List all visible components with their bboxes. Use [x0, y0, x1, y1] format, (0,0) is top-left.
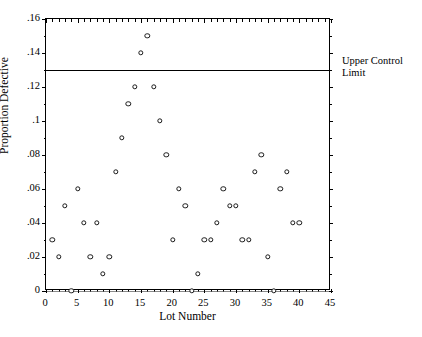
y-tick-mark	[44, 274, 47, 275]
x-tick-mark-top	[103, 19, 104, 22]
x-tick-label: 45	[325, 298, 336, 309]
x-tick-mark	[147, 289, 148, 292]
x-tick-mark-top	[230, 19, 231, 22]
y-tick-label: 0	[35, 285, 40, 296]
x-tick-mark	[122, 289, 123, 292]
x-tick-mark-top	[198, 19, 199, 22]
data-point	[265, 254, 270, 259]
x-tick-mark-top	[185, 19, 186, 22]
upper-control-limit-annotation: Upper Control Limit	[342, 55, 420, 80]
y-tick-mark	[42, 53, 46, 54]
y-tick-mark	[42, 121, 46, 122]
x-tick-mark-top	[65, 19, 66, 22]
data-point	[81, 220, 86, 225]
x-tick-mark	[103, 289, 104, 292]
data-point	[94, 220, 99, 225]
data-point	[227, 203, 232, 208]
y-tick-mark	[44, 104, 47, 105]
y-tick-mark	[44, 70, 47, 71]
data-point	[157, 118, 162, 123]
x-tick-mark-top	[312, 19, 313, 22]
x-tick-mark-top	[318, 19, 319, 22]
data-point	[297, 220, 302, 225]
data-point	[284, 169, 289, 174]
x-tick-mark-top	[84, 19, 85, 22]
x-tick-mark-top	[78, 19, 79, 23]
x-axis-title: Lot Number	[45, 310, 330, 322]
y-tick-label: .04	[27, 217, 40, 228]
y-tick-label: .12	[27, 81, 40, 92]
data-point	[202, 237, 207, 242]
data-point	[290, 220, 295, 225]
x-tick-mark-top	[135, 19, 136, 22]
y-tick-mark	[42, 155, 46, 156]
x-tick-mark-top	[299, 19, 300, 23]
x-tick-label: 30	[230, 298, 241, 309]
data-point	[62, 203, 67, 208]
x-tick-label: 40	[293, 298, 304, 309]
x-tick-mark	[230, 289, 231, 292]
x-tick-mark	[287, 289, 288, 292]
x-tick-mark	[109, 289, 110, 293]
x-tick-mark-top	[166, 19, 167, 22]
data-point	[151, 84, 156, 89]
x-tick-mark	[173, 289, 174, 293]
y-tick-mark-right	[329, 87, 333, 88]
x-tick-mark	[78, 289, 79, 293]
x-tick-mark	[204, 289, 205, 293]
x-tick-mark	[299, 289, 300, 293]
y-tick-mark-right	[329, 274, 332, 275]
x-tick-mark-top	[242, 19, 243, 22]
y-tick-label: .06	[27, 183, 40, 194]
x-tick-mark	[236, 289, 237, 293]
x-tick-label: 20	[166, 298, 177, 309]
y-tick-mark-right	[329, 155, 333, 156]
x-tick-mark	[59, 289, 60, 292]
data-point	[233, 203, 238, 208]
x-tick-mark-top	[90, 19, 91, 22]
data-point	[183, 203, 188, 208]
x-tick-mark-top	[280, 19, 281, 22]
x-tick-mark-top	[287, 19, 288, 22]
y-tick-mark-right	[329, 257, 333, 258]
x-tick-mark	[198, 289, 199, 292]
x-tick-mark	[179, 289, 180, 292]
x-tick-mark-top	[268, 19, 269, 23]
x-tick-mark	[185, 289, 186, 292]
x-tick-mark	[268, 289, 269, 293]
y-tick-mark	[42, 257, 46, 258]
data-point	[138, 50, 143, 55]
x-tick-mark	[128, 289, 129, 292]
data-point	[176, 186, 181, 191]
data-point	[240, 237, 245, 242]
x-tick-mark	[116, 289, 117, 292]
y-tick-mark-right	[329, 36, 332, 37]
ucl-label-line-1: Upper Control	[342, 55, 420, 67]
x-tick-mark-top	[331, 19, 332, 23]
x-tick-mark	[325, 289, 326, 292]
x-tick-label: 25	[198, 298, 209, 309]
x-tick-mark	[97, 289, 98, 292]
x-tick-mark-top	[306, 19, 307, 22]
data-point	[221, 186, 226, 191]
upper-control-limit	[46, 70, 329, 71]
data-point	[189, 288, 194, 293]
x-tick-mark-top	[173, 19, 174, 23]
y-tick-mark	[42, 223, 46, 224]
x-tick-mark-top	[204, 19, 205, 23]
y-tick-mark-right	[329, 121, 333, 122]
x-tick-mark	[211, 289, 212, 292]
data-point	[75, 186, 80, 191]
data-point	[195, 271, 200, 276]
x-tick-mark-top	[261, 19, 262, 22]
x-tick-mark-top	[249, 19, 250, 22]
x-tick-mark-top	[293, 19, 294, 22]
data-point	[69, 288, 74, 293]
y-tick-label: .08	[27, 149, 40, 160]
x-tick-mark-top	[160, 19, 161, 22]
x-tick-label: 35	[261, 298, 272, 309]
x-tick-mark	[242, 289, 243, 292]
x-tick-mark-top	[255, 19, 256, 22]
x-tick-mark	[65, 289, 66, 292]
x-tick-mark-top	[217, 19, 218, 22]
